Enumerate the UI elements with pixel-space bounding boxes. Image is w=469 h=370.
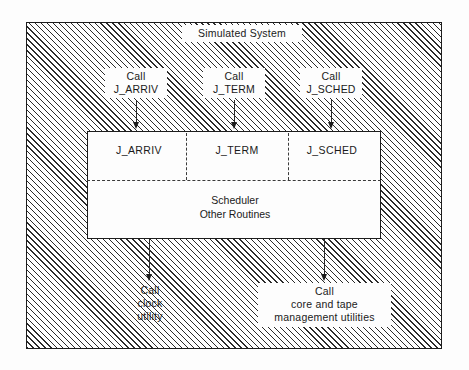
- scheduler-other-routines-label: Scheduler Other Routines: [88, 193, 382, 221]
- routine-divider-1: [186, 133, 187, 180]
- arrow-call-clock-utility-line: [149, 239, 150, 277]
- routine-scheduler-divider: [87, 180, 381, 181]
- arrow-call-j-arriv-line: [136, 100, 137, 124]
- diagram-canvas: Simulated System Call J_ARRIV Call J_TER…: [0, 0, 469, 370]
- arrow-call-management-utilities-line: [324, 239, 325, 277]
- call-j-term-label: Call J_TERM: [203, 70, 265, 96]
- arrow-call-management-utilities-head-icon: [321, 274, 327, 281]
- simulated-system-title: Simulated System: [182, 27, 302, 40]
- call-management-utilities-label: Call core and tape management utilities: [258, 285, 391, 324]
- arrow-call-j-sched-head-icon: [328, 122, 334, 129]
- routine-cell-j-arriv: J_ARRIV: [91, 144, 187, 156]
- arrow-call-j-term-head-icon: [231, 122, 237, 129]
- arrow-call-j-sched-line: [331, 100, 332, 124]
- arrow-call-j-arriv-head-icon: [133, 122, 139, 129]
- arrow-call-clock-utility-head-icon: [146, 274, 152, 281]
- routine-cell-j-sched: J_SCHED: [284, 144, 380, 156]
- routine-cell-j-term: J_TERM: [189, 144, 285, 156]
- call-j-sched-label: Call J_SCHED: [300, 70, 362, 96]
- call-clock-utility-label: Call clock utility: [119, 284, 181, 323]
- call-j-arriv-label: Call J_ARRIV: [105, 70, 167, 96]
- scheduler-main-box: J_ARRIV J_TERM J_SCHED Scheduler Other R…: [87, 131, 381, 239]
- routine-divider-2: [288, 133, 289, 180]
- arrow-call-j-term-line: [234, 100, 235, 124]
